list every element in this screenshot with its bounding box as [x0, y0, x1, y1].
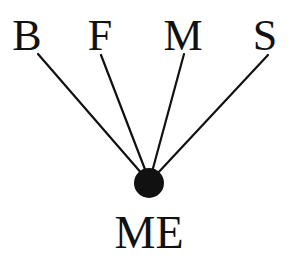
me-node-dot	[134, 168, 164, 198]
node-label-s: S	[253, 11, 277, 60]
diagram-canvas: B F M S ME	[0, 0, 296, 263]
line-m-to-me	[152, 54, 184, 172]
node-label-b: B	[12, 11, 41, 60]
center-label-me: ME	[115, 207, 184, 258]
node-label-f: F	[88, 11, 112, 60]
line-f-to-me	[101, 55, 146, 172]
line-s-to-me	[156, 55, 268, 175]
node-label-m: M	[163, 11, 202, 60]
relationship-diagram: B F M S ME	[0, 0, 296, 263]
line-b-to-me	[38, 54, 143, 175]
connector-lines	[38, 54, 268, 175]
